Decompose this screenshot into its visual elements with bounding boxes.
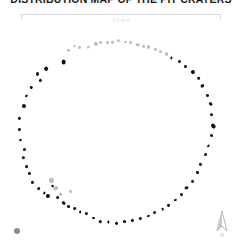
crater-point bbox=[22, 147, 26, 151]
crater-point bbox=[179, 192, 183, 196]
crater-point bbox=[61, 201, 66, 206]
crater-point bbox=[111, 40, 114, 44]
crater-point bbox=[190, 179, 194, 183]
crater-point bbox=[210, 123, 216, 129]
crater-point bbox=[203, 153, 207, 156]
crater-point bbox=[114, 221, 118, 225]
crater-point bbox=[135, 43, 139, 46]
crater-point bbox=[158, 50, 161, 53]
crater-point bbox=[72, 207, 77, 212]
crater-point bbox=[68, 190, 72, 194]
crater-point bbox=[93, 41, 98, 46]
crater-point bbox=[153, 47, 157, 51]
crater-point bbox=[147, 45, 150, 49]
crater-point bbox=[98, 219, 102, 223]
crater-point bbox=[210, 113, 213, 116]
crater-point bbox=[24, 94, 27, 97]
crater-point bbox=[22, 104, 26, 109]
crater-point bbox=[177, 60, 181, 64]
crater-point bbox=[78, 46, 82, 50]
crater-point bbox=[79, 211, 81, 214]
crater-point bbox=[122, 220, 125, 224]
crater-point bbox=[58, 192, 62, 196]
crater-point bbox=[99, 40, 103, 43]
crater-point bbox=[36, 187, 40, 191]
crater-point bbox=[19, 138, 23, 142]
crater-point bbox=[138, 217, 142, 221]
north-arrow-icon bbox=[212, 210, 232, 234]
crater-point bbox=[56, 196, 59, 200]
crater-point bbox=[199, 162, 203, 166]
crater-point bbox=[185, 186, 189, 190]
crater-point-layer bbox=[0, 0, 242, 246]
crater-point bbox=[123, 41, 126, 43]
crater-point bbox=[27, 172, 31, 176]
crater-point bbox=[209, 134, 212, 137]
legend bbox=[14, 228, 74, 240]
crater-point bbox=[36, 72, 39, 76]
crater-point bbox=[86, 45, 90, 49]
crater-point bbox=[164, 52, 168, 57]
crater-point bbox=[17, 128, 21, 132]
crater-point bbox=[206, 144, 210, 148]
crater-point bbox=[208, 102, 213, 107]
crater-point bbox=[170, 56, 173, 59]
crater-point bbox=[46, 194, 51, 199]
crater-point bbox=[117, 39, 122, 44]
crater-point bbox=[195, 171, 198, 175]
crater-point bbox=[29, 86, 33, 89]
crater-point bbox=[31, 180, 35, 184]
crater-point bbox=[25, 164, 29, 168]
crater-point bbox=[66, 48, 69, 51]
crater-point bbox=[53, 185, 59, 190]
crater-point bbox=[184, 64, 188, 67]
crater-point bbox=[173, 198, 177, 201]
crater-point bbox=[166, 203, 170, 207]
crater-point bbox=[72, 44, 75, 48]
map-figure: DISTRIBUTION MAP OF THE PIT CRATERS 10 k… bbox=[0, 0, 242, 246]
crater-point bbox=[146, 214, 149, 217]
crater-point bbox=[67, 205, 70, 208]
crater-point bbox=[18, 116, 22, 120]
crater-point bbox=[160, 207, 163, 211]
north-arrow: N bbox=[212, 210, 232, 240]
crater-point bbox=[141, 44, 145, 48]
crater-point bbox=[129, 41, 133, 45]
crater-point bbox=[43, 66, 48, 71]
crater-point bbox=[107, 220, 110, 223]
crater-point bbox=[205, 94, 208, 97]
north-arrow-label: N bbox=[212, 232, 232, 238]
crater-point bbox=[196, 76, 199, 79]
legend-marker-icon bbox=[14, 228, 20, 234]
crater-point bbox=[84, 212, 88, 216]
crater-point bbox=[62, 59, 66, 64]
crater-point bbox=[49, 177, 56, 183]
crater-point bbox=[21, 156, 25, 160]
crater-point bbox=[190, 69, 196, 75]
crater-point bbox=[201, 84, 206, 89]
crater-point bbox=[153, 211, 157, 215]
crater-point bbox=[38, 78, 42, 82]
crater-point bbox=[92, 217, 95, 219]
crater-point bbox=[105, 41, 109, 45]
crater-point bbox=[130, 218, 134, 222]
